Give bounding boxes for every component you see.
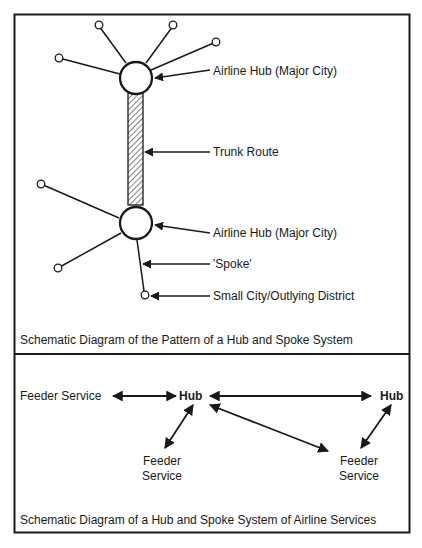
small-city-node bbox=[55, 54, 63, 62]
small-city-node bbox=[169, 21, 177, 29]
label-hub-right: Hub bbox=[380, 389, 403, 403]
arrow-hub-left-to-feeder-mid bbox=[165, 405, 193, 448]
label-airline-hub-upper: Airline Hub (Major City) bbox=[213, 64, 337, 78]
small-city-node bbox=[37, 180, 45, 188]
arrow-to-upper-hub bbox=[155, 70, 210, 78]
label-airline-hub-lower: Airline Hub (Major City) bbox=[213, 226, 337, 240]
label-hub-left: Hub bbox=[179, 389, 202, 403]
top-panel-caption: Schematic Diagram of the Pattern of a Hu… bbox=[20, 333, 353, 347]
airline-hub-lower bbox=[120, 207, 152, 239]
label-feeder-right-2: Service bbox=[339, 469, 379, 483]
top-panel: Airline Hub (Major City) Trunk Route Air… bbox=[20, 21, 355, 347]
label-feeder-right-1: Feeder bbox=[340, 454, 378, 468]
label-spoke: 'Spoke' bbox=[213, 257, 252, 271]
small-city-node bbox=[54, 264, 62, 272]
small-city-node bbox=[141, 291, 149, 299]
airline-hub-upper bbox=[120, 62, 152, 94]
bottom-panel: Feeder Service Hub Hub Feeder Service Fe… bbox=[20, 389, 403, 527]
label-feeder-mid-1: Feeder bbox=[143, 454, 181, 468]
small-city-node bbox=[95, 21, 103, 29]
bottom-panel-caption: Schematic Diagram of a Hub and Spoke Sys… bbox=[20, 513, 376, 527]
arrow-hub-right-to-feeder-right bbox=[361, 405, 391, 448]
label-feeder-service-left: Feeder Service bbox=[20, 389, 102, 403]
label-small-city: Small City/Outlying District bbox=[213, 289, 355, 303]
trunk-route-bar bbox=[128, 93, 143, 205]
arrow-to-lower-hub bbox=[155, 225, 210, 233]
label-feeder-mid-2: Service bbox=[142, 469, 182, 483]
hub-and-spoke-figure: Airline Hub (Major City) Trunk Route Air… bbox=[0, 0, 422, 548]
arrow-hub-left-to-feeder-right bbox=[210, 405, 328, 451]
upper-small-cities bbox=[55, 21, 220, 62]
small-city-node bbox=[212, 38, 220, 46]
label-trunk-route: Trunk Route bbox=[213, 145, 279, 159]
